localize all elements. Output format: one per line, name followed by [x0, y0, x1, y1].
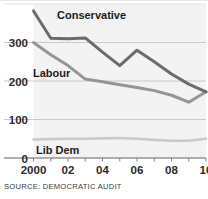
x-tick-label: 04 — [96, 164, 109, 176]
series-label-libdem: Lib Dem — [36, 144, 80, 156]
y-tick-label: 0 — [22, 153, 28, 165]
line-chart: 0100200300 20000204060810 ConservativeLa… — [0, 0, 208, 199]
series-label-conservative: Conservative — [57, 9, 126, 21]
x-axis-labels: 20000204060810 — [21, 164, 208, 176]
axis-ticks — [34, 158, 207, 162]
x-tick-label: 10 — [200, 164, 208, 176]
x-tick-label: 2000 — [21, 164, 47, 176]
y-tick-label: 100 — [9, 114, 28, 126]
x-tick-label: 06 — [131, 164, 144, 176]
chart-figure: 0100200300 20000204060810 ConservativeLa… — [0, 0, 208, 199]
y-axis-labels: 0100200300 — [9, 37, 28, 165]
y-tick-label: 300 — [9, 37, 28, 49]
x-tick-label: 02 — [62, 164, 75, 176]
series-label-labour: Labour — [33, 67, 71, 79]
y-tick-label: 200 — [9, 76, 28, 88]
source-note: SOURCE: DEMOCRATIC AUDIT — [4, 182, 122, 191]
x-tick-label: 08 — [165, 164, 178, 176]
